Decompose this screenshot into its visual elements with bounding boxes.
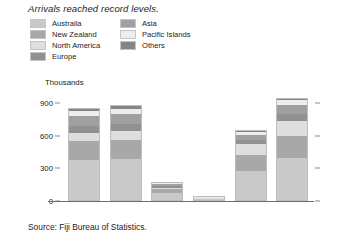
legend-label: Australia xyxy=(52,20,82,28)
bar-segment xyxy=(111,140,141,160)
bar-segment xyxy=(111,114,141,124)
bar-group: 201820192020202120222023 xyxy=(62,103,312,201)
stacked-bar[interactable] xyxy=(235,130,267,201)
y-axis-tick-mark xyxy=(55,168,60,169)
legend-item[interactable]: Europe xyxy=(30,51,100,62)
bar-segment xyxy=(236,171,266,200)
bar-segment xyxy=(69,126,99,133)
y-axis-tick-mark-right xyxy=(315,135,320,136)
legend-item[interactable]: North America xyxy=(30,40,100,51)
bar-segment xyxy=(111,159,141,200)
bar-segment xyxy=(236,155,266,171)
legend-swatch-icon xyxy=(30,30,46,39)
bar-segment xyxy=(69,160,99,200)
y-axis-tick-mark-right xyxy=(315,201,320,202)
legend-item[interactable]: Pacific Islands xyxy=(120,29,191,40)
legend-label: Pacific Islands xyxy=(142,31,191,39)
chart-legend: AustraliaNew ZealandNorth AmericaEurope … xyxy=(30,18,260,64)
bar-segment xyxy=(277,114,307,121)
bar-segment xyxy=(152,193,182,200)
legend-swatch-icon xyxy=(30,19,46,28)
bar-segment xyxy=(277,158,307,200)
legend-label: North America xyxy=(52,42,100,50)
stacked-bar[interactable] xyxy=(151,182,183,201)
legend-swatch-icon xyxy=(120,19,136,28)
bar-segment xyxy=(277,105,307,115)
legend-item[interactable]: Asia xyxy=(120,18,191,29)
y-axis-tick-mark xyxy=(55,103,60,104)
bar-segment xyxy=(277,121,307,136)
legend-swatch-icon xyxy=(120,41,136,50)
source-note: Source: Fiji Bureau of Statistics. xyxy=(28,222,147,232)
bar-segment xyxy=(111,131,141,139)
bar-segment xyxy=(69,133,99,141)
stacked-bar[interactable] xyxy=(110,105,142,201)
plot-area: 0300600900 201820192020202120222023 xyxy=(62,103,312,201)
legend-label: Asia xyxy=(142,20,157,28)
x-axis-line xyxy=(48,201,314,202)
legend-swatch-icon xyxy=(30,52,46,61)
y-axis-tick-mark xyxy=(55,135,60,136)
y-axis-tick-mark-right xyxy=(315,103,320,104)
legend-item[interactable]: Australia xyxy=(30,18,100,29)
bar-segment xyxy=(194,199,224,200)
bar-segment xyxy=(111,124,141,131)
legend-label: Others xyxy=(142,42,165,50)
legend-swatch-icon xyxy=(120,30,136,39)
chart-title: Arrivals reached record levels. xyxy=(28,3,159,14)
stacked-bar[interactable] xyxy=(68,108,100,201)
chart-figure: Arrivals reached record levels. Australi… xyxy=(0,0,338,243)
legend-label: New Zealand xyxy=(52,31,97,39)
bar-segment xyxy=(69,141,99,160)
bar-segment xyxy=(69,116,99,126)
stacked-bar[interactable] xyxy=(276,98,308,201)
legend-column-right: AsiaPacific IslandsOthers xyxy=(120,18,191,51)
y-axis-unit-label: Thousands xyxy=(45,78,84,87)
legend-column-left: AustraliaNew ZealandNorth AmericaEurope xyxy=(30,18,100,62)
legend-item[interactable]: Others xyxy=(120,40,191,51)
legend-item[interactable]: New Zealand xyxy=(30,29,100,40)
legend-label: Europe xyxy=(52,53,77,61)
bar-segment xyxy=(277,136,307,158)
bar-segment xyxy=(236,144,266,154)
y-axis-tick-mark-right xyxy=(315,168,320,169)
legend-swatch-icon xyxy=(30,41,46,50)
stacked-bar[interactable] xyxy=(193,196,225,201)
